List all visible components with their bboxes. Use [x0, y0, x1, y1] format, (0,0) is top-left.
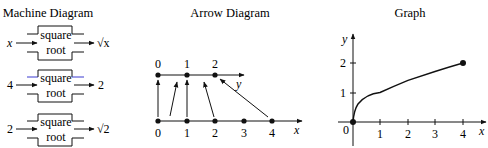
machine-row-3: 2 square root √2 — [7, 114, 110, 146]
machine-label-square: square — [40, 28, 71, 42]
graph-x-tick-3: 3 — [432, 127, 438, 141]
machine-row-1: x square root √x — [6, 26, 110, 60]
top-axis-label-y: y — [235, 77, 242, 91]
bottom-dot-4 — [269, 118, 274, 123]
graph-title: Graph — [394, 6, 426, 20]
arrow-diagram: Arrow Diagram 0 1 2 y 0 1 2 3 4 x — [155, 6, 302, 140]
graph-y-label: y — [341, 32, 348, 46]
bottom-dot-3 — [241, 118, 246, 123]
sqrt-curve — [353, 63, 463, 122]
top-dot-1 — [184, 72, 189, 77]
top-tick-0: 0 — [155, 57, 161, 71]
machine-label-square: square — [40, 71, 71, 85]
machine-output-sqrt-x: √x — [97, 36, 110, 50]
graph-x-label: x — [478, 124, 485, 138]
bottom-axis-label-x: x — [293, 123, 300, 137]
graph-x-tick-4: 4 — [460, 127, 466, 141]
machine-output-2: 2 — [98, 78, 104, 92]
mapping-arrow-2-to-sqrt2 — [204, 82, 214, 117]
top-tick-2: 2 — [212, 57, 218, 71]
bottom-dot-0 — [155, 118, 160, 123]
top-dot-2 — [212, 72, 217, 77]
machine-label-root: root — [46, 43, 66, 57]
machine-input-2: 2 — [7, 122, 13, 136]
graph-x-tick-2: 2 — [405, 127, 411, 141]
graph-start-point — [350, 119, 356, 125]
machine-input-x: x — [6, 36, 13, 50]
graph-origin-label: 0 — [343, 123, 349, 137]
graph-y-tick-2: 2 — [340, 56, 346, 70]
mapping-arrow-fraction — [170, 82, 177, 116]
top-dot-0 — [155, 72, 160, 77]
bottom-tick-1: 1 — [184, 126, 190, 140]
bottom-dot-2 — [212, 118, 217, 123]
graph-x-tick-1: 1 — [377, 127, 383, 141]
bottom-tick-2: 2 — [212, 126, 218, 140]
machine-label-root: root — [46, 130, 66, 144]
machine-output-sqrt-2: √2 — [97, 122, 110, 136]
arrow-diagram-title: Arrow Diagram — [190, 6, 270, 20]
bottom-tick-0: 0 — [155, 126, 161, 140]
bottom-tick-3: 3 — [241, 126, 247, 140]
graph-end-point — [460, 60, 466, 66]
machine-label-root: root — [46, 86, 66, 100]
mapping-arrow-4-to-2 — [220, 79, 268, 117]
graph: Graph y x 0 1 2 3 4 1 2 — [338, 6, 486, 146]
machine-row-2: 4 square root 2 — [7, 70, 104, 102]
figure-canvas: Machine Diagram x square root √x 4 squar… — [0, 0, 488, 148]
bottom-tick-4: 4 — [269, 126, 275, 140]
machine-diagram-title: Machine Diagram — [3, 6, 94, 20]
machine-diagram: Machine Diagram x square root √x 4 squar… — [3, 6, 110, 146]
graph-y-tick-1: 1 — [340, 86, 346, 100]
top-tick-1: 1 — [184, 57, 190, 71]
machine-input-4: 4 — [7, 78, 13, 92]
bottom-dot-1 — [184, 118, 189, 123]
machine-label-square: square — [40, 115, 71, 129]
